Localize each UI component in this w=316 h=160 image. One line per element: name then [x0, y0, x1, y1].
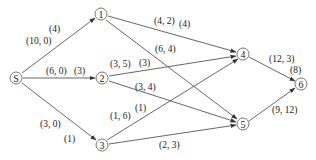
- edge-s-3: [22, 83, 96, 140]
- edge-1-5: [106, 20, 237, 119]
- node-1-label: 1: [99, 9, 104, 20]
- edge-1-4-flow: (4): [179, 20, 190, 30]
- edge-5-6-pair: (9, 12): [272, 106, 297, 116]
- edge-s-1-flow: (4): [49, 25, 60, 35]
- edge-4-6-flow: (8): [290, 66, 301, 76]
- node-4-label: 4: [241, 49, 246, 60]
- node-3-label: 3: [100, 140, 105, 151]
- edge-3-5-pair: (2, 3): [159, 141, 180, 151]
- edge-2-5-pair: (3, 4): [135, 83, 156, 93]
- node-2-label: 2: [100, 73, 105, 84]
- node-6-label: 6: [299, 79, 304, 90]
- edge-s-3-flow: (1): [64, 135, 75, 145]
- edge-3-4-flow: (1): [135, 104, 146, 114]
- node-5-label: 5: [241, 119, 246, 130]
- network-flow-diagram: S 1 2 3 4 5 6 (4) (10, 0) (6, 0) (3) (3,…: [0, 0, 316, 160]
- edge-s-2-pair: (6, 0): [46, 67, 67, 77]
- edge-2-4-flow: (3): [139, 59, 150, 69]
- edge-s-3-pair: (3, 0): [40, 120, 61, 130]
- edge-2-4-pair: (3, 5): [110, 60, 131, 70]
- edge-4-6-pair: (12, 3): [269, 55, 294, 65]
- edge-1-4-pair: (4, 2): [154, 17, 175, 27]
- edge-s-1-pair: (10, 0): [26, 37, 51, 47]
- edge-3-4-pair: (1, 6): [110, 112, 131, 122]
- edge-1-5-pair: (6, 4): [155, 45, 176, 55]
- node-s-label: S: [13, 73, 19, 84]
- edge-s-2-flow: (3): [74, 67, 85, 77]
